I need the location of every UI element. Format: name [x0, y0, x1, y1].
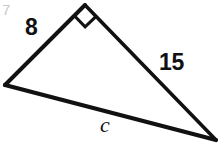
side-label-leg-b: 15	[159, 51, 184, 74]
corner-artifact-number: 7	[2, 2, 10, 17]
side-label-leg-a: 8	[25, 16, 37, 39]
geometry-figure: 7 8 15 c	[0, 0, 220, 143]
side-label-hypotenuse: c	[100, 114, 110, 136]
